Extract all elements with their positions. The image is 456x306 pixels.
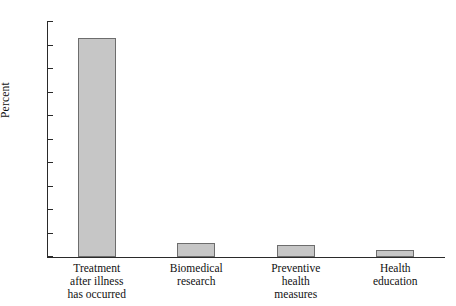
- category-label-line: education: [346, 275, 446, 288]
- category-label-line: measures: [246, 288, 346, 301]
- bar: [277, 245, 315, 257]
- bar: [177, 243, 215, 257]
- plot-area: [47, 22, 445, 257]
- category-label-line: Health: [346, 262, 446, 275]
- category-label-line: Preventive: [246, 262, 346, 275]
- category-label-line: Biomedical: [147, 262, 247, 275]
- category-label-line: after illness: [47, 275, 147, 288]
- y-axis-title: Percent: [0, 82, 11, 118]
- category-label-line: health: [246, 275, 346, 288]
- category-label: Healtheducation: [346, 262, 446, 288]
- category-label-line: research: [147, 275, 247, 288]
- category-label: Treatmentafter illnesshas occurred: [47, 262, 147, 302]
- category-label: Preventivehealthmeasures: [246, 262, 346, 302]
- category-label: Biomedicalresearch: [147, 262, 247, 288]
- bar-chart: Percent 0102030405060708090100 Treatment…: [0, 0, 456, 306]
- x-axis-line: [47, 257, 445, 258]
- category-label-line: Treatment: [47, 262, 147, 275]
- bar: [376, 250, 414, 257]
- category-label-line: has occurred: [47, 288, 147, 301]
- bar: [78, 38, 116, 257]
